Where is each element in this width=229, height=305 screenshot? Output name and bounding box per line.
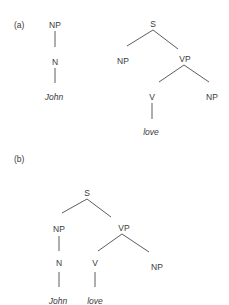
- edge: [127, 30, 153, 46]
- edge: [153, 30, 178, 49]
- panel-b: (b) S NP N John VP V love NP: [14, 154, 163, 305]
- leaf-john: John: [44, 92, 64, 102]
- node-np-subject: NP: [53, 224, 65, 234]
- edge: [184, 65, 209, 82]
- node-v: V: [149, 92, 155, 102]
- node-np-subject: NP: [117, 56, 129, 66]
- node-v: V: [92, 258, 98, 268]
- tree-a1: NP N John: [44, 20, 64, 102]
- node-s: S: [84, 188, 90, 198]
- panel-a-label: (a): [14, 20, 25, 30]
- node-n: N: [56, 258, 62, 268]
- panel-a: (a) NP N John S NP VP V NP love: [14, 19, 218, 137]
- leaf-love: love: [143, 127, 159, 137]
- tree-b: S NP N John VP V love NP: [48, 188, 163, 305]
- edge: [87, 199, 111, 217]
- node-vp: VP: [118, 223, 130, 233]
- syntax-tree-figure: (a) NP N John S NP VP V NP love (b) S: [0, 0, 229, 305]
- leaf-john: John: [48, 296, 68, 305]
- edge: [62, 199, 87, 213]
- edge: [122, 234, 149, 252]
- panel-b-label: (b): [14, 154, 25, 164]
- leaf-love: love: [87, 296, 103, 305]
- edge: [159, 65, 184, 82]
- node-np-object: NP: [206, 92, 218, 102]
- node-vp: VP: [179, 54, 191, 64]
- edge: [98, 234, 122, 251]
- node-s: S: [150, 19, 156, 29]
- node-np-object: NP: [151, 262, 163, 272]
- tree-a2: S NP VP V NP love: [117, 19, 218, 137]
- node-np: NP: [49, 20, 61, 30]
- node-n: N: [52, 57, 58, 67]
